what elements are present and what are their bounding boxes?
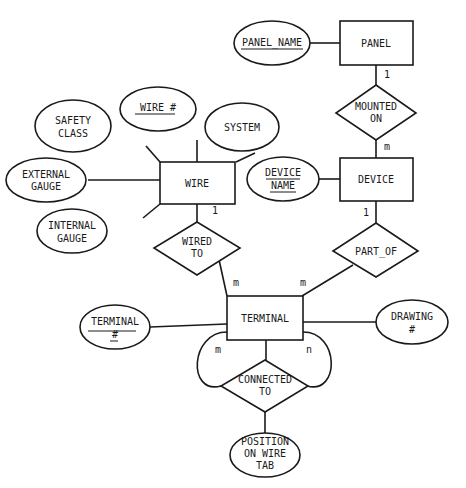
entity-device[interactable]: DEVICE — [340, 158, 413, 201]
svg-text:MOUNTED: MOUNTED — [355, 101, 397, 112]
svg-text:TERMINAL: TERMINAL — [91, 316, 139, 327]
svg-text:CLASS: CLASS — [58, 128, 88, 139]
attribute-device-name[interactable]: DEVICE NAME — [247, 157, 319, 201]
entity-label: TERMINAL — [241, 313, 289, 324]
svg-text:n: n — [306, 344, 312, 355]
attribute-wire-no[interactable]: WIRE # — [120, 87, 196, 131]
entity-label: PANEL — [361, 38, 391, 49]
svg-text:#: # — [409, 324, 415, 335]
svg-text:GAUGE: GAUGE — [57, 233, 87, 244]
svg-text:DEVICE: DEVICE — [265, 167, 301, 178]
svg-text:GAUGE: GAUGE — [31, 181, 61, 192]
svg-text:m: m — [300, 277, 306, 288]
svg-text:1: 1 — [384, 69, 390, 80]
svg-text:PART_OF: PART_OF — [355, 246, 397, 258]
svg-text:NAME: NAME — [271, 180, 295, 191]
attribute-system[interactable]: SYSTEM — [205, 103, 279, 151]
svg-text:TO: TO — [259, 386, 271, 397]
attribute-terminal-no[interactable]: TERMINAL # — [80, 305, 150, 349]
svg-text:EXTERNAL: EXTERNAL — [22, 169, 70, 180]
svg-text:#: # — [112, 329, 118, 340]
svg-text:WIRE #: WIRE # — [140, 102, 176, 113]
svg-text:1: 1 — [363, 207, 369, 218]
svg-text:POSITION: POSITION — [241, 436, 289, 447]
svg-text:TO: TO — [191, 248, 203, 259]
svg-text:CONNECTED: CONNECTED — [238, 374, 292, 385]
svg-text:SYSTEM: SYSTEM — [224, 122, 260, 133]
entity-panel[interactable]: PANEL — [340, 21, 413, 65]
relationship-mounted-on[interactable]: MOUNTED ON — [336, 85, 416, 140]
svg-text:SAFETY: SAFETY — [55, 115, 91, 126]
svg-text:m: m — [215, 344, 221, 355]
svg-text:DRAWING: DRAWING — [391, 311, 433, 322]
svg-text:m: m — [384, 141, 390, 152]
attribute-drawing-no[interactable]: DRAWING # — [376, 300, 448, 344]
attribute-safety-class[interactable]: SAFETY CLASS — [35, 100, 111, 152]
entity-terminal[interactable]: TERMINAL — [227, 296, 303, 340]
relationship-wired-to[interactable]: WIRED TO — [154, 222, 240, 275]
attribute-panel-name[interactable]: PANEL_NAME — [234, 21, 310, 65]
entity-label: WIRE — [185, 178, 209, 189]
svg-text:m: m — [233, 277, 239, 288]
svg-text:1: 1 — [212, 205, 218, 216]
svg-text:ON WIRE: ON WIRE — [244, 448, 286, 459]
er-diagram: PANEL DEVICE WIRE TERMINAL MOUNTED ON PA… — [0, 0, 466, 488]
attribute-position-on-wire-tab[interactable]: POSITION ON WIRE TAB — [230, 433, 300, 477]
attribute-internal-gauge[interactable]: INTERNAL GAUGE — [37, 209, 107, 253]
attribute-external-gauge[interactable]: EXTERNAL GAUGE — [6, 158, 86, 202]
entity-label: DEVICE — [358, 174, 394, 185]
svg-text:TAB: TAB — [256, 460, 274, 471]
relationship-connected-to[interactable]: CONNECTED TO — [221, 360, 308, 412]
svg-text:PANEL_NAME: PANEL_NAME — [242, 37, 302, 49]
svg-text:ON: ON — [370, 113, 382, 124]
svg-text:INTERNAL: INTERNAL — [48, 220, 96, 231]
entity-wire[interactable]: WIRE — [160, 162, 235, 204]
svg-text:WIRED: WIRED — [182, 236, 212, 247]
